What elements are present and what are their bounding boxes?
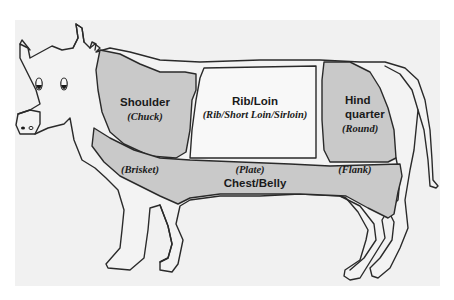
label-rib-loin-name: Rib/Loin — [232, 95, 278, 107]
label-shoulder-name: Shoulder — [120, 96, 170, 108]
label-hindquarter-sub: (Round) — [342, 123, 378, 135]
label-brisket: (Brisket) — [121, 164, 159, 176]
label-plate: (Plate) — [235, 164, 264, 176]
cow-diagram: Shoulder (Chuck) Rib/Loin (Rib/Short Loi… — [0, 0, 454, 300]
label-hindquarter-line1: Hind — [345, 94, 371, 106]
label-flank: (Flank) — [338, 164, 371, 176]
label-chest-belly-name: Chest/Belly — [224, 177, 287, 189]
label-rib-loin-sub: (Rib/Short Loin/Sirloin) — [203, 109, 308, 121]
label-hindquarter-line2: quarter — [345, 108, 385, 120]
label-shoulder-sub: (Chuck) — [127, 111, 163, 123]
cow-nostril-left — [21, 126, 25, 129]
